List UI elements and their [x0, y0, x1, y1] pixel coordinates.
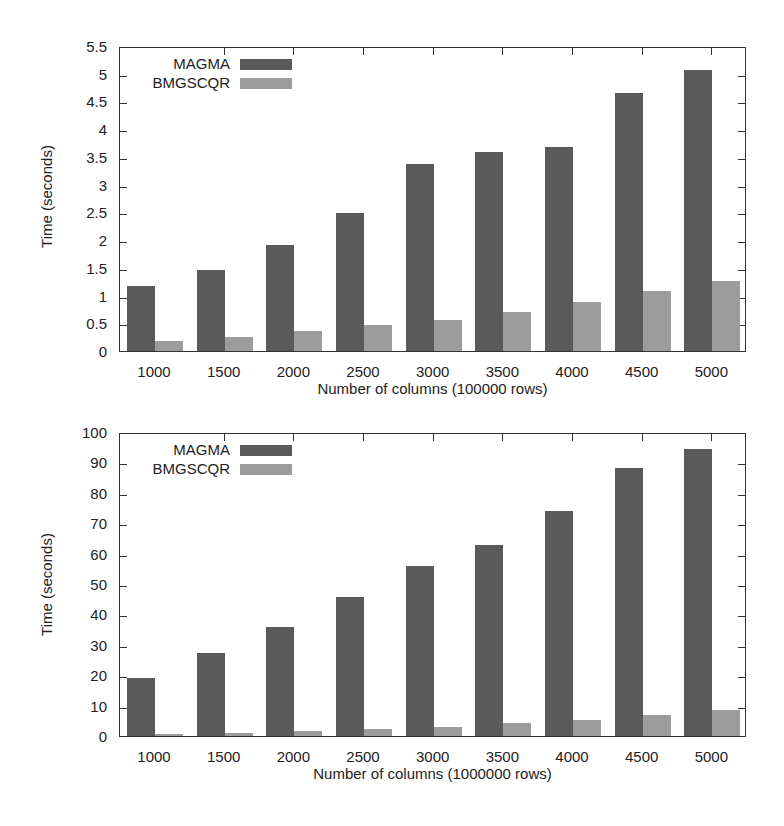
y-tick-mark	[120, 270, 127, 271]
x-tick-mark	[293, 434, 294, 441]
bar-magma-1500	[197, 270, 225, 351]
y-tick-mark	[120, 495, 127, 496]
legend: MAGMABMGSCQR	[130, 442, 292, 480]
bar-magma-5000	[684, 449, 712, 736]
y-tick-mark	[120, 464, 127, 465]
x-tick-mark	[502, 434, 503, 441]
bar-bmgscqr-3500	[503, 723, 531, 736]
x-tick-mark	[711, 48, 712, 55]
legend-item: BMGSCQR	[130, 461, 292, 480]
x-tick-mark	[363, 434, 364, 441]
x-tick-label: 4000	[537, 364, 607, 379]
x-tick-label: 4500	[607, 364, 677, 379]
x-tick-mark	[433, 48, 434, 55]
y-tick-mark	[120, 76, 127, 77]
y-tick-label: 80	[57, 486, 107, 501]
bar-magma-3500	[475, 152, 503, 351]
bar-bmgscqr-3500	[503, 312, 531, 351]
legend-label: MAGMA	[173, 442, 230, 457]
bar-magma-5000	[684, 70, 712, 351]
y-tick-label: 4	[57, 122, 107, 137]
y-tick-mark-right	[738, 677, 745, 678]
bar-magma-3000	[406, 566, 434, 736]
y-tick-mark	[120, 103, 127, 104]
bar-bmgscqr-1000	[155, 341, 183, 351]
y-tick-mark-right	[738, 242, 745, 243]
y-axis-title: Time (seconds)	[38, 127, 55, 267]
legend-swatch	[240, 59, 292, 70]
y-tick-label: 1	[57, 289, 107, 304]
y-tick-label: 40	[57, 607, 107, 622]
x-tick-label: 3500	[467, 749, 537, 764]
bar-bmgscqr-4500	[643, 715, 671, 736]
bar-bmgscqr-3000	[434, 320, 462, 351]
y-tick-mark-right	[738, 708, 745, 709]
y-axis-title: Time (seconds)	[38, 515, 55, 655]
legend-item: MAGMA	[130, 56, 292, 75]
y-tick-label: 5	[57, 67, 107, 82]
x-tick-mark	[502, 48, 503, 55]
y-tick-label: 2.5	[57, 205, 107, 220]
bar-bmgscqr-1500	[225, 337, 253, 351]
bar-magma-1500	[197, 653, 225, 736]
y-tick-mark	[120, 708, 127, 709]
legend-item: MAGMA	[130, 442, 292, 461]
y-tick-label: 0	[57, 729, 107, 744]
y-tick-mark	[120, 647, 127, 648]
bar-magma-2000	[266, 627, 294, 736]
x-tick-mark	[293, 48, 294, 55]
bar-magma-1000	[127, 286, 155, 351]
bar-magma-2500	[336, 597, 364, 736]
y-tick-label: 5.5	[57, 39, 107, 54]
x-tick-mark	[224, 48, 225, 55]
y-tick-mark	[120, 325, 127, 326]
x-tick-label: 3000	[398, 364, 468, 379]
y-tick-label: 0.5	[57, 316, 107, 331]
legend: MAGMABMGSCQR	[130, 56, 292, 94]
legend-label: BMGSCQR	[152, 461, 230, 476]
bar-magma-4000	[545, 511, 573, 736]
legend-label: BMGSCQR	[152, 75, 230, 90]
x-tick-label: 1000	[119, 749, 189, 764]
bar-magma-1000	[127, 678, 155, 736]
x-tick-label: 2000	[258, 364, 328, 379]
bar-magma-4500	[615, 93, 643, 351]
x-tick-label: 2500	[328, 749, 398, 764]
y-tick-mark	[120, 616, 127, 617]
legend-swatch	[240, 464, 292, 475]
y-tick-mark-right	[738, 556, 745, 557]
x-tick-label: 5000	[676, 749, 746, 764]
y-tick-label: 2	[57, 233, 107, 248]
y-tick-label: 4.5	[57, 94, 107, 109]
x-axis-title: Number of columns (1000000 rows)	[119, 765, 746, 782]
x-tick-label: 4500	[607, 749, 677, 764]
y-tick-mark	[120, 556, 127, 557]
y-tick-mark	[120, 214, 127, 215]
y-tick-mark	[120, 242, 127, 243]
x-tick-mark	[363, 48, 364, 55]
x-tick-label: 4000	[537, 749, 607, 764]
y-tick-mark-right	[738, 464, 745, 465]
y-tick-label: 10	[57, 699, 107, 714]
x-tick-label: 1500	[189, 364, 259, 379]
x-tick-mark	[224, 434, 225, 441]
bar-magma-4000	[545, 147, 573, 351]
y-tick-mark-right	[738, 187, 745, 188]
y-tick-label: 3	[57, 178, 107, 193]
x-tick-label: 3500	[467, 364, 537, 379]
y-tick-mark-right	[738, 495, 745, 496]
y-tick-label: 1.5	[57, 261, 107, 276]
y-tick-mark	[120, 677, 127, 678]
bar-bmgscqr-4000	[573, 302, 601, 351]
y-tick-mark-right	[738, 525, 745, 526]
x-axis-title: Number of columns (100000 rows)	[119, 380, 746, 397]
y-tick-label: 30	[57, 638, 107, 653]
x-tick-mark	[642, 48, 643, 55]
y-tick-label: 3.5	[57, 150, 107, 165]
y-tick-label: 60	[57, 547, 107, 562]
x-tick-mark	[711, 434, 712, 441]
bar-bmgscqr-1000	[155, 734, 183, 736]
legend-swatch	[240, 445, 292, 456]
bar-bmgscqr-5000	[712, 281, 740, 351]
bar-magma-3500	[475, 545, 503, 736]
